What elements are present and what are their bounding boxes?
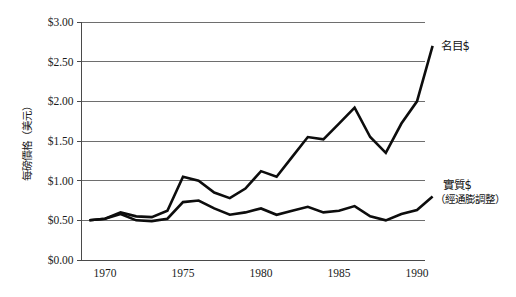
x-axis-tick-labels: 19701975198019851990 (94, 267, 429, 279)
x-axis-tick-label: 1975 (172, 267, 195, 279)
x-axis-tick-label: 1970 (94, 267, 117, 279)
y-axis-tick-label: $1.50 (48, 135, 74, 147)
series-label-real: 實質$ (443, 178, 472, 192)
series-sublabel-real-inflation-adjusted: （經通膨調整） (435, 193, 505, 205)
axis-tick-marks (77, 22, 82, 260)
data-series-lines (89, 46, 432, 221)
y-axis-title: 每磅價格（美元） (21, 101, 33, 181)
y-axis-tick-labels: $0.00$0.50$1.00$1.50$2.00$2.50$3.00 (48, 16, 74, 266)
y-axis-tick-label: $0.50 (48, 214, 74, 226)
y-axis-tick-label: $1.00 (48, 175, 74, 187)
series-label-nominal: 名目$ (441, 39, 470, 53)
x-axis-tick-label: 1990 (406, 267, 429, 279)
y-axis-tick-label: $2.50 (48, 56, 74, 68)
gridlines (82, 22, 426, 220)
x-axis-tick-label: 1985 (328, 267, 351, 279)
y-axis-tick-label: $2.00 (48, 95, 74, 107)
price-line-chart: $0.00$0.50$1.00$1.50$2.00$2.50$3.00 1970… (0, 0, 516, 297)
y-axis-tick-label: $3.00 (48, 16, 74, 28)
x-axis-tick-label: 1980 (250, 267, 273, 279)
series-line-nominal (89, 46, 432, 221)
chart-container: $0.00$0.50$1.00$1.50$2.00$2.50$3.00 1970… (0, 0, 516, 297)
y-axis-tick-label: $0.00 (48, 254, 74, 266)
